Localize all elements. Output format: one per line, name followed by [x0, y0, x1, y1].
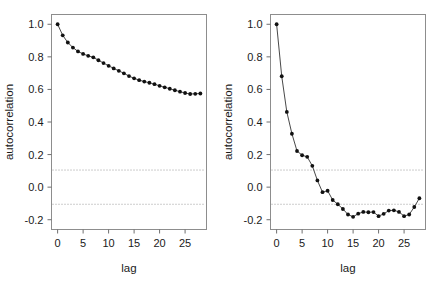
data-point: [366, 210, 370, 214]
x-tick-label: 15: [347, 237, 359, 249]
data-point: [377, 214, 381, 218]
acf-points-right: [275, 22, 422, 218]
y-tick-label: 1.0: [247, 18, 262, 30]
data-point: [417, 196, 421, 200]
y-tick-label: 0.8: [247, 51, 262, 63]
data-point: [66, 41, 70, 45]
acf-figure: -0.20.00.20.40.60.81.0 0510152025 lag au…: [0, 0, 438, 286]
data-point: [198, 92, 202, 96]
data-point: [153, 82, 157, 86]
y-tick-label: 0.6: [247, 83, 262, 95]
x-tick-label: 0: [274, 237, 280, 249]
plot-area-right: -0.20.00.20.40.60.81.0 0510152025: [244, 15, 426, 249]
acf-line-right: [277, 24, 420, 217]
data-point: [158, 84, 162, 88]
data-point: [275, 22, 279, 26]
acf-plot-right-svg: -0.20.00.20.40.60.81.0 0510152025 lag au…: [219, 0, 438, 286]
data-point: [173, 88, 177, 92]
y-tick-label: 1.0: [28, 18, 43, 30]
x-tick-label: 10: [102, 237, 114, 249]
confidence-lines-left: [53, 170, 206, 204]
x-axis-title-left: lag: [121, 262, 136, 274]
data-point: [402, 214, 406, 218]
acf-plot-left-svg: -0.20.00.20.40.60.81.0 0510152025 lag au…: [0, 0, 219, 286]
plot-frame-left: [52, 15, 207, 230]
data-point: [387, 209, 391, 213]
data-point: [382, 212, 386, 216]
data-point: [336, 202, 340, 206]
data-point: [86, 54, 90, 58]
x-axis-right: 0510152025: [274, 230, 411, 249]
data-point: [321, 190, 325, 194]
data-point: [107, 64, 111, 68]
plot-frame-right: [271, 15, 426, 230]
y-tick-label: -0.2: [25, 214, 44, 226]
x-tick-label: 0: [55, 237, 61, 249]
y-tick-label: 0.6: [28, 83, 43, 95]
data-point: [316, 179, 320, 183]
x-axis-title-right: lag: [340, 262, 355, 274]
data-point: [361, 210, 365, 214]
data-point: [142, 80, 146, 84]
y-tick-label: 0.8: [28, 51, 43, 63]
data-point: [61, 33, 65, 37]
y-axis-right: -0.20.00.20.40.60.81.0: [244, 18, 271, 225]
data-point: [132, 76, 136, 80]
y-tick-label: 0.4: [247, 116, 262, 128]
data-point: [285, 110, 289, 114]
acf-line-left: [58, 24, 201, 94]
y-tick-label: 0.0: [247, 181, 262, 193]
data-point: [81, 52, 85, 56]
x-tick-label: 20: [372, 237, 384, 249]
y-axis-title-left: autocorrelation: [3, 84, 15, 160]
data-point: [305, 155, 309, 159]
data-point: [310, 164, 314, 168]
y-tick-label: -0.2: [244, 214, 263, 226]
plot-area-left: -0.20.00.20.40.60.81.0 0510152025: [25, 15, 207, 249]
x-tick-label: 15: [128, 237, 140, 249]
data-point: [193, 92, 197, 96]
x-tick-label: 20: [153, 237, 165, 249]
data-point: [295, 149, 299, 153]
y-tick-label: 0.4: [28, 116, 43, 128]
data-point: [91, 55, 95, 59]
data-point: [137, 78, 141, 82]
y-tick-label: 0.2: [28, 149, 43, 161]
x-axis-left: 0510152025: [55, 230, 192, 249]
data-point: [397, 210, 401, 214]
x-tick-label: 5: [299, 237, 305, 249]
data-point: [188, 92, 192, 96]
y-tick-label: 0.0: [28, 181, 43, 193]
x-tick-label: 5: [80, 237, 86, 249]
data-point: [97, 58, 101, 62]
acf-panel-right: -0.20.00.20.40.60.81.0 0510152025 lag au…: [219, 0, 438, 286]
y-axis-title-right: autocorrelation: [222, 84, 234, 160]
data-point: [183, 91, 187, 95]
data-point: [117, 69, 121, 73]
data-point: [178, 90, 182, 94]
data-point: [122, 71, 126, 75]
data-point: [356, 212, 360, 216]
data-point: [341, 207, 345, 211]
x-tick-label: 25: [179, 237, 191, 249]
data-point: [412, 205, 416, 209]
data-point: [102, 61, 106, 65]
data-point: [392, 208, 396, 212]
data-point: [168, 87, 172, 91]
data-point: [147, 81, 151, 85]
data-point: [127, 74, 131, 78]
data-point: [290, 132, 294, 136]
x-tick-label: 25: [398, 237, 410, 249]
data-point: [326, 189, 330, 193]
data-point: [76, 50, 80, 54]
confidence-lines-right: [272, 170, 425, 204]
data-point: [351, 215, 355, 219]
acf-panel-left: -0.20.00.20.40.60.81.0 0510152025 lag au…: [0, 0, 219, 286]
y-axis-left: -0.20.00.20.40.60.81.0: [25, 18, 52, 225]
data-point: [112, 67, 116, 71]
data-point: [163, 85, 167, 89]
y-tick-label: 0.2: [247, 149, 262, 161]
data-point: [331, 198, 335, 202]
acf-points-left: [56, 22, 203, 96]
data-point: [407, 213, 411, 217]
